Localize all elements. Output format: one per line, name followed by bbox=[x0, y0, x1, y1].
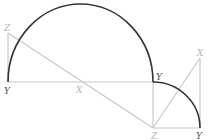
geometry-diagram: Z Y X Y Z Y X bbox=[0, 0, 211, 140]
quarter-circle-arc bbox=[153, 82, 200, 128]
label-x-middle: X bbox=[75, 85, 83, 95]
label-y-bottom-right: Y bbox=[196, 131, 203, 140]
label-z-bottom: Z bbox=[150, 131, 158, 140]
label-z-top-left: Z bbox=[3, 23, 11, 33]
large-semicircle-arc bbox=[8, 4, 153, 82]
label-y-right-of-semicircle: Y bbox=[156, 72, 163, 82]
arcs bbox=[8, 4, 200, 128]
label-y-bottom-left: Y bbox=[4, 86, 11, 96]
diagonal-segment-z-x bbox=[153, 58, 200, 128]
construction-lines bbox=[8, 33, 200, 128]
diagonal-segment-z-z bbox=[8, 33, 153, 128]
label-x-top-right: X bbox=[196, 48, 204, 58]
diagram-canvas: Z Y X Y Z Y X bbox=[0, 0, 211, 140]
